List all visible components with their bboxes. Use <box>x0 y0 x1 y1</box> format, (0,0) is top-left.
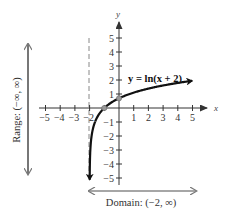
range-indicator: Range: (−∞, ∞) <box>11 44 28 174</box>
x-axis: x −5−4−3−212345 <box>39 103 218 123</box>
y-tick-label: −3 <box>103 145 114 156</box>
highlighted-point <box>116 96 121 101</box>
domain-indicator: Domain: (−2, ∞) <box>89 191 196 209</box>
log-curve-lower-branch <box>90 122 96 180</box>
x-tick-label: −4 <box>54 112 65 123</box>
highlighted-point <box>102 105 107 110</box>
x-tick-label: 4 <box>175 112 180 123</box>
x-tick-label: 3 <box>161 112 166 123</box>
y-tick-label: 1 <box>109 89 114 100</box>
y-tick-label: 2 <box>109 75 114 86</box>
domain-label: Domain: (−2, ∞) <box>106 197 177 209</box>
x-tick-label: 1 <box>131 112 136 123</box>
x-tick-label: 5 <box>190 112 195 123</box>
y-axis-label: y <box>115 9 120 19</box>
y-tick-label: 3 <box>109 61 114 72</box>
x-tick-label: 2 <box>146 112 151 123</box>
y-tick-label: −2 <box>103 131 114 142</box>
graph-canvas: Range: (−∞, ∞) Domain: (−2, ∞) x −5−4−3−… <box>0 0 231 221</box>
y-tick-label: 4 <box>109 47 114 58</box>
y-tick-label: −5 <box>103 173 114 184</box>
equation-label: y = ln(x + 2) <box>128 73 182 85</box>
y-tick-label: −4 <box>103 159 114 170</box>
x-tick-label: −2 <box>83 112 94 123</box>
y-tick-label: −1 <box>103 117 114 128</box>
range-label: Range: (−∞, ∞) <box>11 77 23 143</box>
x-tick-label: −3 <box>69 112 80 123</box>
x-tick-label: −5 <box>39 112 50 123</box>
x-axis-label: x <box>213 103 218 113</box>
y-tick-label: 5 <box>109 33 114 44</box>
